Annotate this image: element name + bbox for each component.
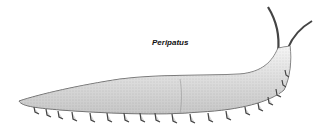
caption-label: Peripatus	[152, 38, 188, 47]
peripatus-drawing	[0, 0, 335, 133]
